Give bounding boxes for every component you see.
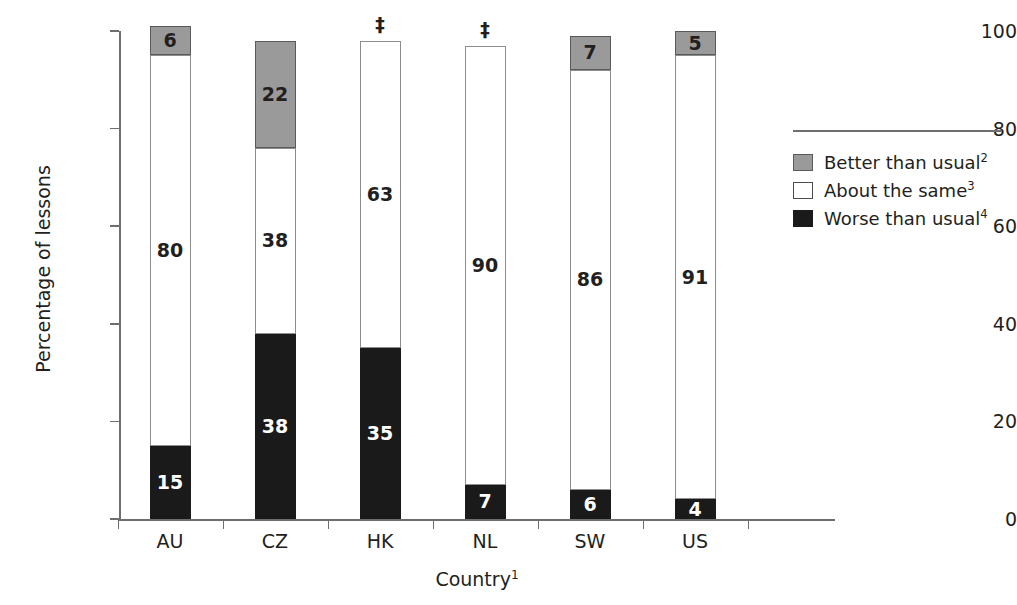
legend-item-label: About the same3 xyxy=(824,180,975,201)
y-tick-label: 20 xyxy=(921,412,1017,431)
gray-square-icon xyxy=(793,154,813,171)
x-tick-mark xyxy=(748,520,750,529)
bar-segment: 15 xyxy=(150,446,191,519)
bar-group: ‡907 xyxy=(465,0,506,605)
bar-segment: 7 xyxy=(465,485,506,519)
x-category-label-hk: HK xyxy=(335,531,425,552)
stacked-bar-chart: Percentage of lessons Country1 100806040… xyxy=(0,0,1017,605)
bar-segment: 6 xyxy=(150,26,191,55)
bar-segment: 35 xyxy=(360,348,401,519)
y-tick-mark xyxy=(110,421,119,423)
x-tick-mark xyxy=(538,520,540,529)
y-tick-label: 40 xyxy=(921,315,1017,334)
bar-segment: 38 xyxy=(255,334,296,519)
y-tick-mark xyxy=(110,128,119,130)
bar-group: 223838 xyxy=(255,0,296,605)
y-axis-title: Percentage of lessons xyxy=(32,59,54,479)
y-tick-mark xyxy=(110,30,119,32)
bar-segment-value-label: 7 xyxy=(478,492,491,511)
y-tick-mark xyxy=(110,225,119,227)
bar-segment: 22 xyxy=(255,41,296,148)
bar-segment-value-label: 35 xyxy=(367,424,393,443)
bar-segment: 38 xyxy=(255,148,296,333)
x-axis-title-footnote: 1 xyxy=(511,568,519,582)
bar-segment-value-label: 5 xyxy=(688,34,701,53)
bar-segment-value-label: 38 xyxy=(262,231,288,250)
bar-segment-value-label: 15 xyxy=(157,473,183,492)
bar-group: ‡6335 xyxy=(360,0,401,605)
bar-segment: 6 xyxy=(570,490,611,519)
bar-group: 5914 xyxy=(675,0,716,605)
x-tick-mark xyxy=(433,520,435,529)
white-square-icon xyxy=(793,182,813,199)
bar-segment-value-label: 86 xyxy=(577,270,603,289)
x-tick-mark xyxy=(223,520,225,529)
bar-segment: 5 xyxy=(675,31,716,55)
bar-segment-value-label: 6 xyxy=(163,31,176,50)
bar-segment: 90 xyxy=(465,46,506,485)
legend-item: Better than usual2 xyxy=(793,152,1005,173)
legend-item-footnote: 2 xyxy=(981,151,988,165)
x-tick-mark xyxy=(328,520,330,529)
legend-item-label: Better than usual2 xyxy=(824,152,988,173)
x-category-label-us: US xyxy=(650,531,740,552)
bar-segment-value-label: 38 xyxy=(262,417,288,436)
bar-segment-value-label: 7 xyxy=(583,43,596,62)
legend-items: Better than usual2About the same3Worse t… xyxy=(793,152,1005,229)
bar-segment-value-label: 80 xyxy=(157,241,183,260)
legend-item-footnote: 4 xyxy=(980,207,987,221)
bar-group: 7866 xyxy=(570,0,611,605)
bar-segment: 86 xyxy=(570,70,611,490)
bar-segment-value-label: 22 xyxy=(262,85,288,104)
x-category-label-au: AU xyxy=(125,531,215,552)
bar-segment-value-label: 63 xyxy=(367,185,393,204)
bar-segment: 91 xyxy=(675,55,716,499)
chart-legend: Better than usual2About the same3Worse t… xyxy=(793,130,1005,236)
bar-segment: 4 xyxy=(675,499,716,519)
bar-segment-value-label: 90 xyxy=(472,256,498,275)
black-square-icon xyxy=(793,210,813,227)
bar-segment: 63 xyxy=(360,41,401,348)
y-tick-label: 0 xyxy=(921,510,1017,529)
suppressed-value-marker: ‡ xyxy=(465,20,506,39)
x-category-label-cz: CZ xyxy=(230,531,320,552)
bar-segment-value-label: 4 xyxy=(688,500,701,519)
y-tick-mark xyxy=(110,323,119,325)
bar-segment: 7 xyxy=(570,36,611,70)
legend-item-label: Worse than usual4 xyxy=(824,208,988,229)
bar-group: 68015 xyxy=(150,0,191,605)
legend-item: About the same3 xyxy=(793,180,1005,201)
legend-item-footnote: 3 xyxy=(967,179,974,193)
suppressed-value-marker: ‡ xyxy=(360,15,401,34)
bar-segment: 80 xyxy=(150,55,191,445)
y-axis-line xyxy=(119,31,121,520)
legend-top-rule xyxy=(793,130,1002,132)
legend-item: Worse than usual4 xyxy=(793,208,1005,229)
x-tick-mark xyxy=(643,520,645,529)
bar-segment-value-label: 6 xyxy=(583,495,596,514)
x-tick-mark xyxy=(118,520,120,529)
y-tick-label: 100 xyxy=(921,22,1017,41)
bar-segment-value-label: 91 xyxy=(682,268,708,287)
x-category-label-sw: SW xyxy=(545,531,635,552)
x-category-label-nl: NL xyxy=(440,531,530,552)
